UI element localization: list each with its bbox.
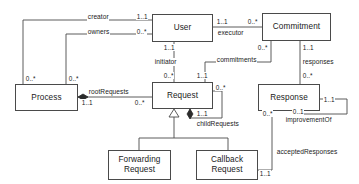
multiplicity-improvement-right: 1..1 (323, 96, 335, 103)
association-label-root-requests: rootRequests (88, 88, 129, 96)
edge-generalization-tree[interactable] (139, 138, 228, 150)
multiplicity-executor-user: 1..1 (216, 18, 228, 25)
class-name-process: Process (31, 93, 61, 103)
class-box-process[interactable]: Process (15, 84, 78, 111)
class-box-user[interactable]: User (152, 14, 213, 42)
multiplicity-executor-commitment: 0..* (247, 18, 258, 25)
multiplicity-owners-user: 0..* (136, 28, 147, 35)
multiplicity-initiator-request: 0..* (163, 72, 174, 79)
association-label-responses: responses (302, 58, 334, 66)
multiplicity-root-request: 0..* (134, 99, 145, 106)
association-label-child-requests: childRequests (196, 120, 240, 128)
association-label-accepted-responses: acceptedResponses (276, 148, 338, 156)
generalization-triangle (169, 109, 179, 117)
edge-accepted-responses[interactable] (258, 111, 272, 170)
multiplicity-child-top: 0..* (215, 84, 226, 91)
class-box-forwarding-request[interactable]: Forwarding Request (108, 150, 171, 180)
class-name-user: User (174, 23, 192, 33)
multiplicity-accepted-response: 0..* (262, 110, 273, 117)
multiplicity-improvement-bottom: 0..1 (292, 108, 304, 115)
multiplicity-responses-commitment: 1..1 (302, 44, 314, 51)
class-box-callback-request[interactable]: Callback Request (196, 150, 258, 180)
uml-class-diagram: User Commitment Process Request Response… (0, 0, 359, 184)
association-label-improvement-of: improvementOf (285, 116, 332, 124)
class-box-request[interactable]: Request (152, 82, 213, 109)
class-name-callback-request: Callback Request (211, 155, 243, 175)
class-box-commitment[interactable]: Commitment (262, 13, 331, 41)
multiplicity-responses-response: 0..* (302, 72, 313, 79)
multiplicity-child-bottom: 1..1 (196, 110, 208, 117)
class-name-commitment: Commitment (273, 22, 320, 32)
multiplicity-accepted-callback: 1..1 (259, 170, 271, 177)
class-box-response[interactable]: Response (258, 84, 320, 111)
multiplicity-commitments-request: 1..1 (196, 72, 208, 79)
multiplicity-commitments-commitment: 0..* (257, 44, 268, 51)
association-label-creator: creator (87, 13, 109, 21)
association-label-initiator: initiator (154, 58, 177, 66)
multiplicity-creator-user: 1..1 (136, 13, 148, 20)
class-name-response: Response (270, 93, 308, 103)
class-name-forwarding-request: Forwarding Request (119, 155, 161, 175)
association-label-commitments: commitments (216, 56, 257, 64)
multiplicity-owners-process: 0..* (68, 75, 79, 82)
class-name-request: Request (167, 91, 198, 101)
composition-diamond-child-requests (187, 109, 193, 119)
multiplicity-root-process: 1..1 (81, 99, 93, 106)
multiplicity-initiator-user: 1..1 (163, 44, 175, 51)
association-label-executor: executor (217, 29, 244, 37)
association-label-owners: owners (87, 28, 110, 36)
multiplicity-creator-process: 0..* (25, 75, 36, 82)
